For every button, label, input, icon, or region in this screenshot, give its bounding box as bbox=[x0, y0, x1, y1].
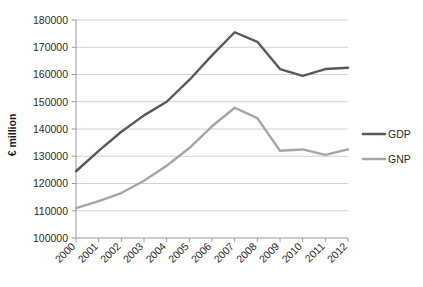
line-chart: 1000001100001200001300001400001500001600… bbox=[0, 0, 423, 287]
chart-container: 1000001100001200001300001400001500001600… bbox=[0, 0, 423, 287]
y-axis-tick-labels: 1000001100001200001300001400001500001600… bbox=[33, 14, 68, 244]
y-axis-title: € million bbox=[6, 114, 18, 157]
y-tick-label: 180000 bbox=[33, 14, 68, 26]
y-tick-label: 150000 bbox=[33, 96, 68, 108]
y-tick-label: 130000 bbox=[33, 150, 68, 162]
legend-label-gnp: GNP bbox=[388, 153, 411, 165]
y-tick-label: 100000 bbox=[33, 232, 68, 244]
y-tick-label: 120000 bbox=[33, 177, 68, 189]
y-tick-label: 110000 bbox=[34, 205, 68, 217]
y-tick-label: 160000 bbox=[33, 68, 68, 80]
y-tick-label: 170000 bbox=[33, 41, 68, 53]
y-tick-label: 140000 bbox=[33, 123, 68, 135]
legend-label-gdp: GDP bbox=[388, 128, 411, 140]
